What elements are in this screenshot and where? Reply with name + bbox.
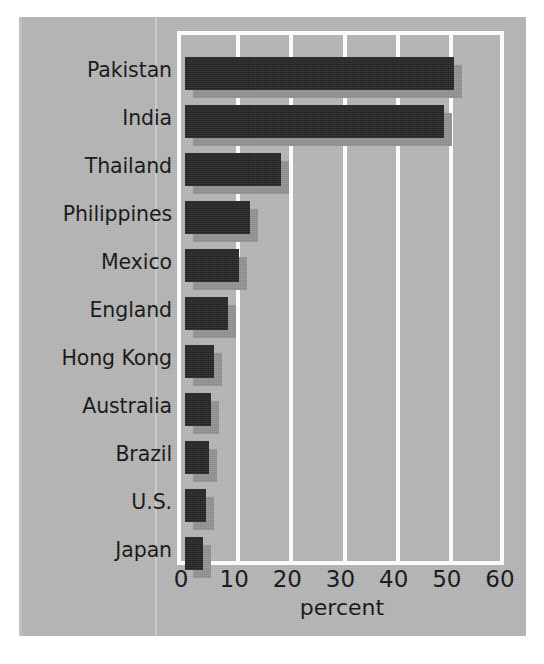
category-label-pakistan: Pakistan bbox=[19, 60, 172, 81]
x-tick-label-20: 20 bbox=[273, 568, 302, 591]
category-label-philippines: Philippines bbox=[19, 204, 172, 225]
category-axis-labels: Pakistan India Thailand Philippines Mexi… bbox=[19, 17, 172, 636]
x-tick-label-10: 10 bbox=[220, 568, 249, 591]
bar-australia[interactable] bbox=[185, 393, 211, 426]
bar-mexico[interactable] bbox=[185, 249, 239, 282]
chart-panel: Pakistan India Thailand Philippines Mexi… bbox=[19, 17, 526, 636]
bar-india[interactable] bbox=[185, 105, 444, 138]
bar-thailand[interactable] bbox=[185, 153, 281, 186]
x-tick-label-50: 50 bbox=[432, 568, 461, 591]
category-label-england: England bbox=[19, 300, 172, 321]
bar-hong-kong[interactable] bbox=[185, 345, 214, 378]
category-label-india: India bbox=[19, 108, 172, 129]
category-label-brazil: Brazil bbox=[19, 444, 172, 465]
bar-brazil[interactable] bbox=[185, 441, 209, 474]
category-label-us: U.S. bbox=[19, 492, 172, 513]
bar-england[interactable] bbox=[185, 297, 228, 330]
bar-pakistan[interactable] bbox=[185, 57, 454, 90]
bar-u-s[interactable] bbox=[185, 489, 206, 522]
value-axis-ticks: 0102030405060 bbox=[177, 568, 526, 598]
x-tick-label-0: 0 bbox=[174, 568, 189, 591]
x-tick-label-60: 60 bbox=[485, 568, 514, 591]
x-axis-title: percent bbox=[177, 597, 507, 619]
category-label-thailand: Thailand bbox=[19, 156, 172, 177]
figure: Pakistan India Thailand Philippines Mexi… bbox=[0, 0, 544, 664]
x-tick-label-40: 40 bbox=[379, 568, 408, 591]
category-label-australia: Australia bbox=[19, 396, 172, 417]
plot-area bbox=[177, 31, 504, 565]
bar-philippines[interactable] bbox=[185, 201, 250, 234]
category-label-japan: Japan bbox=[19, 540, 172, 561]
x-tick-label-30: 30 bbox=[326, 568, 355, 591]
category-label-hong-kong: Hong Kong bbox=[19, 348, 172, 369]
category-label-mexico: Mexico bbox=[19, 252, 172, 273]
